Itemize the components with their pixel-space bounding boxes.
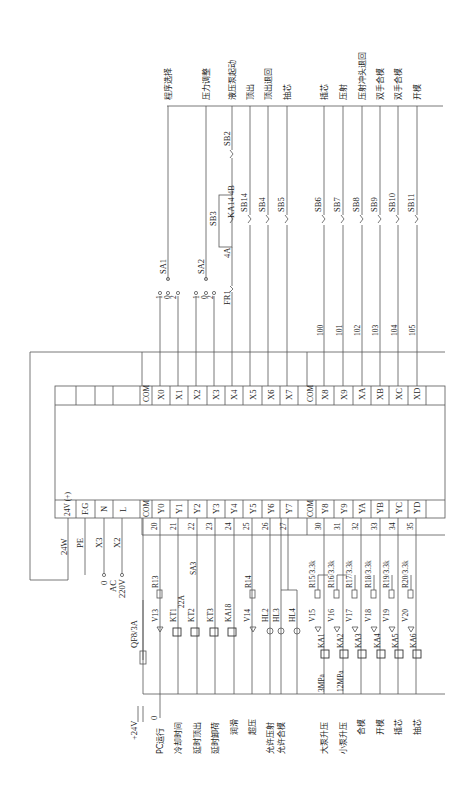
v16-label: V16 xyxy=(327,609,336,622)
pressure-3mpa-label: 3MPa xyxy=(317,673,326,692)
output-function: 润滑 xyxy=(229,719,239,735)
plus24v-label: +24V xyxy=(129,720,139,740)
output-function: 延时顶出 xyxy=(192,722,202,754)
input-function: 开模 xyxy=(412,84,422,100)
ka6-label: KA6 xyxy=(409,633,418,648)
r18-label: R18/3.3k xyxy=(364,560,373,588)
x3-label: X3 xyxy=(94,538,104,548)
input-terminal: X0 xyxy=(156,390,166,400)
ac-220v-label: 220V xyxy=(117,578,127,598)
wire-number: 25 xyxy=(242,522,251,530)
hl2-label: HL2 xyxy=(261,608,270,622)
wire-number: 101 xyxy=(335,325,344,337)
input-terminal: X2 xyxy=(192,390,202,400)
rating-22a-label: 22A xyxy=(177,595,186,609)
sb3-label: SB3 xyxy=(208,211,218,226)
input-function: 顶出退回 xyxy=(263,68,273,100)
pressure-12mpa-label: 12MPa xyxy=(336,670,345,692)
r20-label: R20/3.3k xyxy=(401,560,410,588)
node-4b-label: 4B xyxy=(226,185,236,195)
sb7-label: SB7 xyxy=(332,197,342,212)
input-terminal: X7 xyxy=(284,390,294,400)
r15-label: R15/3.3k xyxy=(308,560,317,588)
wire-number: 30 xyxy=(314,522,323,530)
wire-number: 32 xyxy=(351,522,360,530)
input-function: 压射冲头退回 xyxy=(357,52,367,100)
output-function: 延时卸荷 xyxy=(210,722,220,754)
output-terminal: Y7 xyxy=(284,504,294,514)
r17-label: R17/3.3k xyxy=(345,560,354,588)
wire-number: 26 xyxy=(261,522,270,530)
v13-label: V13 xyxy=(151,609,160,622)
wire-number: 35 xyxy=(406,522,415,530)
output-terminal: N xyxy=(99,506,109,512)
wire-number: 27 xyxy=(279,522,288,530)
r13-label: R13 xyxy=(151,575,160,588)
output-terminal-labels: 24V (+) F.G N L COM Y0 Y1 Y2 Y3 Y4 Y5 Y6… xyxy=(63,492,422,517)
input-function: 双手合模 xyxy=(393,68,403,100)
input-terminal: X9 xyxy=(339,390,349,400)
output-function: 大泵升压 xyxy=(319,722,329,754)
output-terminal: F.G xyxy=(80,503,90,515)
input-terminal: XD xyxy=(412,388,422,400)
zero-label: 0 xyxy=(149,716,159,720)
output-terminal: Y0 xyxy=(156,504,166,514)
r19-label: R19/3.3k xyxy=(382,560,391,588)
wire-number: 22 xyxy=(187,522,196,530)
output-terminal: Y4 xyxy=(229,503,239,514)
v14-label: V14 xyxy=(243,609,252,622)
input-switch-labels: SA1 SA2 SB2 SB3 KA14 4B 4A SB14 SB4 SB5 … xyxy=(155,131,417,336)
input-terminal: XB xyxy=(375,388,385,400)
input-terminal: COM xyxy=(306,385,315,402)
sa2-label: SA2 xyxy=(196,259,206,274)
input-function: 抽芯 xyxy=(282,84,292,100)
output-function: 开模 xyxy=(375,719,385,735)
breaker-label: QF8/3A xyxy=(129,619,139,648)
input-terminal: XC xyxy=(394,388,404,400)
output-terminal: COM xyxy=(142,500,151,517)
output-function-labels: PC运行 冷却时间 延时顶出 延时卸荷 润滑 超压 允许压射 允许合模 大泵升压… xyxy=(155,719,422,754)
output-function: 冷却时间 xyxy=(173,722,183,754)
output-terminal: Y9 xyxy=(339,504,349,514)
output-function: 允许压射 xyxy=(265,722,275,754)
fr1-label: FR1 xyxy=(222,290,232,305)
sb10-label: SB10 xyxy=(387,193,397,212)
sa1-pos-2: 2 xyxy=(169,295,178,299)
output-function: PC运行 xyxy=(155,728,165,754)
input-function-labels: 程序选择 压力调整 液压泵起动 顶出 顶出退回 抽芯 插芯 压射 压射冲头退回 … xyxy=(163,52,422,100)
wire-number: 103 xyxy=(371,325,380,337)
output-wiring xyxy=(142,518,445,694)
wire-number: 23 xyxy=(205,522,214,530)
input-terminal: X1 xyxy=(174,390,184,400)
output-terminal: Y8 xyxy=(320,504,330,514)
supply-24w-label: 24W xyxy=(59,538,69,555)
ka3-label: KA3 xyxy=(354,633,363,648)
output-terminal: Y5 xyxy=(248,504,258,514)
sb9-label: SB9 xyxy=(369,197,379,212)
input-terminal: X6 xyxy=(266,390,276,400)
wire-number: 105 xyxy=(408,325,417,337)
ka4-label: KA4 xyxy=(373,633,382,648)
output-terminal: Y1 xyxy=(174,504,184,514)
wire-number: 20 xyxy=(150,522,159,530)
sb4-label: SB4 xyxy=(257,197,267,212)
plc-body xyxy=(55,386,445,518)
input-function: 压射 xyxy=(338,84,348,100)
input-function: 压力调整 xyxy=(201,68,211,100)
wire-number: 102 xyxy=(353,325,362,337)
hl3-label: HL3 xyxy=(272,608,281,622)
input-function: 液压泵起动 xyxy=(227,60,237,100)
output-function: 抽芯 xyxy=(412,719,422,735)
output-function: 小泵升压 xyxy=(339,722,348,754)
input-terminal: X5 xyxy=(248,390,258,400)
output-function: 插芯 xyxy=(393,719,403,735)
ka1-label: KA1 xyxy=(317,633,326,648)
input-function: 程序选择 xyxy=(163,68,173,100)
output-component-labels: V13 R13 KT1 22A KT2 SA3 KT3 KA18 V14 R14… xyxy=(151,560,418,692)
ka14-label: KA14 xyxy=(226,196,236,218)
output-function: 超压 xyxy=(247,719,257,735)
sa1-label: SA1 xyxy=(158,259,168,274)
output-terminal: L xyxy=(118,507,128,512)
ka2-label: KA2 xyxy=(336,633,345,648)
wire-number: 100 xyxy=(316,325,325,337)
